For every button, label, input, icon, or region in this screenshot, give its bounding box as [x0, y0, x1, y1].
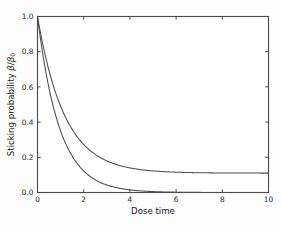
y-tick-label: 0.8 — [22, 47, 34, 56]
x-axis-title: Dose time — [131, 206, 175, 216]
plot-area-background — [38, 17, 269, 193]
x-tick-label: 4 — [128, 195, 133, 204]
y-tick-label: 0.6 — [22, 83, 34, 92]
x-tick-label: 2 — [81, 195, 86, 204]
y-tick-label: 0.0 — [22, 188, 34, 197]
y-tick-label: 1.0 — [22, 12, 34, 21]
x-tick-label: 0 — [35, 195, 40, 204]
y-axis-title: Sticking probability β/β0 — [6, 53, 17, 156]
chart-figure: 0246810 0.00.20.40.60.81.0 Dose time Sti… — [0, 0, 281, 231]
line-chart: 0246810 0.00.20.40.60.81.0 Dose time Sti… — [0, 0, 281, 231]
x-tick-label: 8 — [220, 195, 225, 204]
x-tick-label: 10 — [264, 195, 274, 204]
y-tick-label: 0.4 — [22, 118, 34, 127]
y-axis-title-text: Sticking probability β/β0 — [6, 53, 17, 156]
x-tick-label: 6 — [174, 195, 179, 204]
y-tick-label: 0.2 — [22, 153, 34, 162]
